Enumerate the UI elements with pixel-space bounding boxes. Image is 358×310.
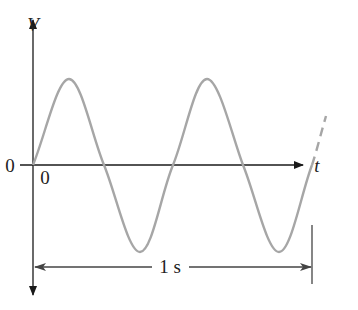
- origin-left-label: 0: [5, 155, 15, 176]
- dimension-label: 1 s: [159, 256, 181, 277]
- waveform-diagram: 1 s V t 0 0: [0, 0, 358, 310]
- t-axis-label: t: [314, 155, 320, 176]
- v-axis-label: V: [27, 14, 41, 35]
- origin-below-label: 0: [40, 167, 50, 188]
